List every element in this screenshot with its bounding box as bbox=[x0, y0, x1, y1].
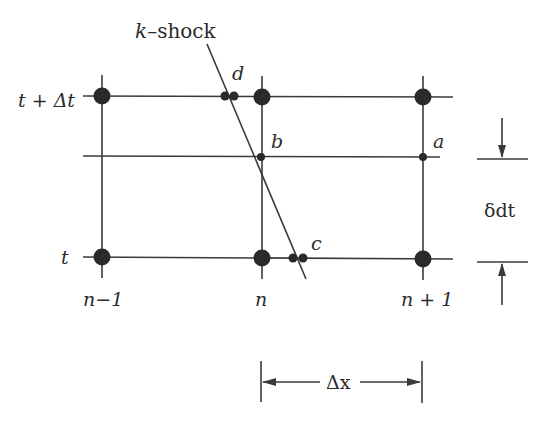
point-b bbox=[257, 153, 265, 161]
point-c-left bbox=[289, 254, 298, 263]
time-label-top: t + Δt bbox=[18, 89, 75, 111]
ddt-arrowhead-top-icon bbox=[498, 145, 506, 158]
node-label-right: n + 1 bbox=[401, 288, 453, 310]
node-center-bottom bbox=[254, 250, 271, 267]
point-d-right bbox=[230, 92, 239, 101]
time-label-bottom: t bbox=[61, 246, 69, 268]
shock-line bbox=[207, 44, 306, 279]
label-a: a bbox=[433, 130, 444, 152]
point-a bbox=[419, 153, 427, 161]
point-d-left bbox=[221, 92, 230, 101]
k-shock-grid-diagram: k–shock d b a c t + Δt t n−1 n n + 1 Δx … bbox=[0, 0, 549, 428]
label-d: d bbox=[232, 62, 244, 84]
diagram-svg: k–shock d b a c t + Δt t n−1 n n + 1 Δx … bbox=[0, 0, 549, 428]
node-center-top bbox=[254, 89, 271, 106]
node-label-center: n bbox=[255, 288, 267, 310]
label-b: b bbox=[271, 130, 283, 152]
ddt-arrowhead-bottom-icon bbox=[498, 263, 506, 276]
shock-label-rest: –shock bbox=[147, 19, 216, 43]
node-label-left: n−1 bbox=[83, 288, 123, 310]
dx-arrowhead-left-icon bbox=[262, 378, 276, 386]
shock-label: k–shock bbox=[135, 19, 217, 43]
ddt-label: δdt bbox=[484, 199, 516, 221]
node-left-top bbox=[94, 88, 111, 105]
node-right-top bbox=[415, 89, 432, 106]
node-right-bottom bbox=[415, 251, 432, 268]
dx-arrowhead-right-icon bbox=[407, 378, 421, 386]
label-c: c bbox=[311, 232, 322, 254]
point-c-right bbox=[299, 254, 308, 263]
node-left-bottom bbox=[94, 249, 111, 266]
dx-label: Δx bbox=[326, 371, 351, 393]
